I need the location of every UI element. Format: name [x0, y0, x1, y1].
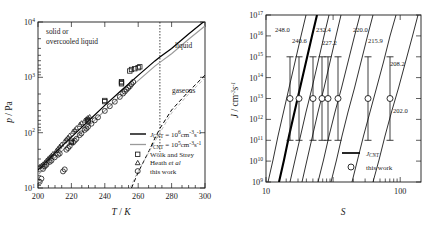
right-y-tick-labels: 1017 1016 1015 1014 1013 1012 1011 1010 … [249, 10, 263, 188]
ry-exp-0: 17 [257, 10, 263, 16]
ry-tick-6: 10 [249, 136, 257, 145]
left-x-tick-labels: 200 220 240 260 280 300 [32, 192, 211, 201]
svg-text:1012: 1012 [249, 114, 263, 125]
svg-text:1011: 1011 [249, 135, 263, 146]
ry-exp-1: 16 [257, 30, 263, 36]
isotherm-label-248-0: 248.0 [275, 26, 291, 33]
ry-tick-1: 10 [249, 32, 257, 41]
solid-region-label-line2: overcooled liquid [46, 37, 98, 46]
svg-text:104: 104 [24, 17, 35, 28]
ry-tick-3: 10 [249, 74, 257, 83]
y-tick-2: 10 [24, 129, 32, 138]
right-y-axis-title: J / cm-3s-1 [230, 82, 240, 118]
thiswork-data-points [37, 80, 136, 185]
left-panel-svg: 104 103 102 101 p / Pa [0, 0, 218, 232]
svg-text:1014: 1014 [249, 72, 263, 83]
x-tick-0: 200 [32, 192, 44, 201]
right-legend: JCNT this work [342, 150, 393, 172]
ry-tick-0: 10 [249, 11, 257, 20]
ry-tick-2: 10 [249, 53, 257, 62]
ry-exp-8: 9 [260, 177, 263, 183]
gaseous-region-label: gaseous [172, 86, 196, 95]
rx-tick-1: 100 [394, 187, 406, 196]
right-panel: 1017 1016 1015 1014 1013 1012 1011 1010 … [218, 0, 437, 232]
legend-triangle-marker [135, 160, 140, 164]
legend-square-marker [136, 152, 140, 156]
x-tick-2: 240 [99, 192, 111, 201]
left-panel: 104 103 102 101 p / Pa [0, 0, 218, 232]
right-x-axis-title: S [341, 207, 346, 217]
isotherm-label-208-2: 208.2 [390, 60, 405, 67]
isotherm-label-227-2: 227.2 [322, 39, 337, 46]
x-title-unit: K [123, 207, 131, 217]
ry-title-sep: / [230, 107, 240, 114]
measurement-points [287, 96, 393, 102]
svg-text:1013: 1013 [249, 93, 263, 104]
legend-entry-thiswork: this work [150, 168, 177, 176]
right-legend-entry-thiswork: this work [366, 164, 393, 172]
ry-tick-8: 10 [252, 178, 260, 187]
ry-tick-4: 10 [249, 95, 257, 104]
y-tick-1: 10 [24, 73, 32, 82]
isotherm-label-215-9: 215.9 [368, 37, 384, 44]
ry-exp-5: 12 [257, 114, 263, 120]
y-tick-exp-1: 3 [32, 72, 35, 78]
svg-text:1017: 1017 [249, 10, 263, 21]
legend-entry-jcnt5: JCNT = 105cm-3s-1 [150, 140, 202, 150]
y-title-unit: Pa [4, 100, 14, 110]
figure-container: 104 103 102 101 p / Pa [0, 0, 437, 232]
heath-data-points [37, 115, 92, 169]
svg-text:1010: 1010 [249, 156, 263, 167]
y-tick-exp-0: 4 [32, 17, 35, 23]
x-tick-4: 280 [165, 192, 177, 201]
isotherm-label-220-0: 220.0 [353, 26, 369, 33]
x-tick-3: 260 [132, 192, 144, 201]
y-tick-exp-2: 2 [32, 127, 35, 133]
isotherm-label-232-4: 232.4 [316, 26, 332, 33]
ry-exp-2: 15 [257, 51, 263, 57]
y-title-sep: / [4, 111, 14, 118]
legend-jcnt6-eq: = 10 [163, 131, 178, 139]
svg-text:1016: 1016 [249, 30, 263, 41]
legend-jcnt5-eq: = 10 [163, 141, 178, 149]
ry-title-unit2exp: -1 [230, 82, 236, 87]
ry-exp-3: 14 [257, 72, 263, 78]
legend-entry-jcnt6: JCNT = 106cm-3s-1 [150, 129, 202, 139]
legend-heath-italic: et al [168, 159, 180, 167]
x-tick-5: 300 [199, 192, 211, 201]
ry-tick-5: 10 [249, 115, 257, 124]
right-panel-svg: 1017 1016 1015 1014 1013 1012 1011 1010 … [218, 0, 437, 232]
ry-exp-7: 10 [257, 156, 263, 162]
x-title-sep: / [117, 207, 124, 217]
svg-text:1015: 1015 [249, 51, 263, 62]
solid-region-label-line1: solid or [46, 27, 69, 36]
legend-heath-label: Heath [150, 159, 168, 167]
svg-text:103: 103 [24, 72, 35, 83]
right-legend-entry-jcnt: JCNT [366, 150, 380, 159]
svg-text:109: 109 [252, 177, 263, 188]
svg-text:102: 102 [24, 127, 35, 138]
y-tick-0: 10 [24, 18, 32, 27]
legend-jcnt6-unit2exp: -1 [197, 129, 202, 135]
rx-tick-0: 10 [262, 187, 270, 196]
ry-title-unit: cm [230, 94, 240, 106]
right-legend-circle-marker [348, 164, 354, 170]
left-y-tick-labels: 104 103 102 101 [24, 17, 35, 194]
rlegend-jcnt-sub: CNT [369, 152, 380, 158]
legend-entry-wolk-strey: Wölk and Strey [150, 151, 194, 159]
legend-jcnt5-unit2exp: -1 [197, 140, 202, 146]
ry-tick-7: 10 [249, 157, 257, 166]
liquid-region-label: liquid [175, 41, 193, 50]
ry-exp-4: 13 [257, 93, 263, 99]
y-tick-exp-3: 1 [32, 183, 35, 189]
right-x-tick-labels: 10 100 [262, 187, 406, 196]
left-x-axis-title: T / K [111, 207, 131, 217]
isotherm-label-202-0: 202.0 [393, 107, 409, 114]
isotherm-label-240-6: 240.6 [292, 37, 308, 44]
x-tick-1: 220 [65, 192, 77, 201]
left-legend: JCNT = 106cm-3s-1 JCNT = 105cm-3s-1 Wölk… [130, 129, 202, 176]
legend-entry-heath: Heath et al [150, 159, 181, 167]
ry-exp-6: 11 [258, 135, 264, 141]
left-y-axis-title: p / Pa [4, 100, 14, 123]
